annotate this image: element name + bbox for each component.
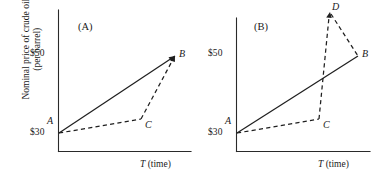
panel-b-line-db bbox=[331, 14, 358, 56]
panel-b-solid-path bbox=[237, 56, 358, 133]
panel-a-line-cb bbox=[141, 58, 174, 120]
panel-a-line-ab bbox=[59, 56, 175, 133]
panel-a-line-ac bbox=[59, 119, 141, 133]
panel-a-solid-path bbox=[59, 56, 175, 133]
panel-b-line-ab bbox=[237, 56, 358, 133]
panel-b-dashed-path bbox=[237, 12, 358, 133]
panel-b-axes bbox=[237, 18, 371, 152]
panel-b-line-cd bbox=[319, 17, 329, 119]
panel-b-line-ac bbox=[237, 119, 319, 133]
plot-canvas bbox=[0, 0, 388, 179]
panel-a-axes bbox=[59, 10, 192, 152]
oil-price-figure: Nominal price of crude oil (per barrel) … bbox=[0, 0, 388, 179]
